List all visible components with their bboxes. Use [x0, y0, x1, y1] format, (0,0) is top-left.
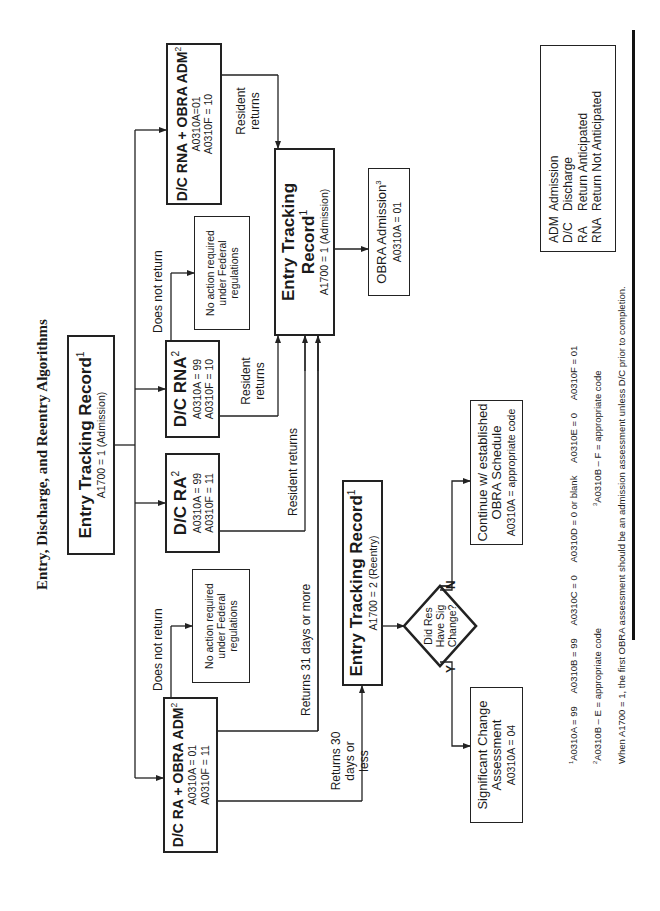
footnote-1: 1A0310A = 99 A0310B = 99 A0310C = 0 A031…: [568, 346, 579, 764]
node-line2: A0310F = 10: [202, 94, 214, 154]
node-line2: A0310F = 11: [203, 473, 215, 533]
legend-abbr: D/C: [561, 211, 575, 243]
footnote-ref: 2: [170, 703, 180, 708]
legend-abbr: RNA: [590, 211, 604, 243]
legend-meaning: Discharge: [561, 157, 575, 211]
page-title: Entry, Discharge, and Reentry Algorithms: [34, 319, 51, 590]
edge-label-returns-31-days: Returns 31 days or more: [300, 584, 314, 716]
entry-tracking-record-admission-mid: Entry Tracking Record1 A1700 = 1 (Admiss…: [274, 148, 335, 336]
legend-abbr: RA: [576, 211, 590, 243]
node-title: Entry Tracking Record: [347, 495, 366, 676]
legend-row: RNAReturn Not Anticipated: [590, 54, 604, 243]
node-subtitle: A0310A = 01: [391, 202, 403, 262]
node-line1: A0310A=01: [190, 96, 202, 151]
dc-ra-node: D/C RA2 A0310A = 99 A0310F = 11: [165, 453, 220, 553]
significant-change-assessment-node: Significant Change Assessment A0310A = 0…: [470, 687, 523, 823]
dc-rna-node: D/C RNA2 A0310A = 99 A0310F = 10: [165, 340, 220, 438]
legend-row: ADMAdmission: [547, 54, 561, 243]
node-line1: A0310A = 01: [186, 745, 198, 805]
edge-label-resident-returns-ra: Resident returns: [287, 428, 301, 516]
footnote-when: When A1700 = 1, the first OBRA assessmen…: [616, 286, 627, 764]
node-subtitle: A0310A = appropriate code: [505, 409, 517, 537]
node-subtitle: A1700 = 1 (Admission): [95, 392, 107, 499]
node-title: D/C RNA: [171, 356, 190, 427]
footnote-ref: 3: [374, 180, 383, 184]
abbreviation-legend: ADMAdmission D/CDischarge RAReturn Antic…: [540, 45, 616, 252]
no-action-required-right: No action required under Federal regulat…: [194, 216, 250, 330]
node-title: Continue w/ established OBRA Schedule: [476, 401, 506, 544]
edge-label-returns-30-days: Returns 30 days or less: [330, 731, 371, 791]
edge-label-resident-returns-rna-obra: Resident returns: [235, 81, 263, 141]
footnote-3: 3A0310B – F = appropriate code: [592, 371, 603, 506]
legend-row: RAReturn Anticipated: [576, 54, 590, 243]
node-subtitle: A0310A = 04: [505, 725, 517, 785]
dc-rna-obra-adm-node: D/C RNA + OBRA ADM2 A0310A=01 A0310F = 1…: [166, 43, 222, 205]
footnote-ref: 1: [346, 489, 357, 495]
node-subtitle: A1700 = 2 (Reentry): [367, 536, 379, 631]
footnote-ref: 1: [75, 351, 86, 357]
no-action-required-left: No action required under Federal regulat…: [192, 569, 250, 683]
node-subtitle: A1700 = 1 (Admission): [318, 189, 330, 296]
footnote-ref: 2: [170, 471, 181, 477]
node-title: OBRA Admission: [375, 185, 390, 284]
node-line2: A0310F = 10: [203, 359, 215, 419]
dc-ra-obra-adm-node: D/C RA + OBRA ADM2 A0310A = 01 A0310F = …: [163, 697, 218, 853]
edge-label-does-not-return-right: Does not return: [152, 250, 166, 333]
footnote-ref: 1: [298, 210, 309, 216]
legend-row: D/CDischarge: [561, 54, 575, 243]
node-title: Entry Tracking Record: [279, 183, 318, 301]
legend-meaning: Return Not Anticipated: [590, 91, 604, 211]
continue-obra-schedule-node: Continue w/ established OBRA Schedule A0…: [470, 400, 523, 545]
node-line2: A0310F = 11: [199, 745, 211, 805]
legend-meaning: Return Anticipated: [576, 113, 590, 211]
footnote-text: A0310A = 99 A0310B = 99 A0310C = 0 A0310…: [568, 346, 579, 761]
legend-abbr: ADM: [547, 211, 561, 243]
node-title: D/C RNA + OBRA ADM: [174, 51, 190, 201]
edge-label-does-not-return-left: Does not return: [152, 608, 166, 691]
edge-label-resident-returns-rna: Resident returns: [240, 351, 268, 411]
footnote-ref: 2: [170, 351, 181, 357]
node-title: Entry Tracking Record: [76, 357, 95, 538]
node-text: No action required under Federal regulat…: [204, 225, 240, 321]
entry-tracking-record-reentry: Entry Tracking Record1 A1700 = 2 (Reentr…: [342, 480, 383, 686]
node-title: Significant Change Assessment: [476, 688, 506, 822]
node-text: No action required under Federal regulat…: [203, 578, 239, 674]
node-line1: A0310A = 99: [191, 359, 203, 419]
decision-yes-label: Y: [444, 665, 458, 673]
node-line1: A0310A = 99: [191, 473, 203, 533]
entry-tracking-record-admission-top: Entry Tracking Record1 A1700 = 1 (Admiss…: [67, 335, 115, 555]
footnote-ref: 2: [173, 47, 183, 52]
decision-no-label: N: [444, 580, 458, 589]
node-title: D/C RA + OBRA ADM: [170, 708, 186, 848]
footnote-text: A0310B – E = appropriate code: [592, 628, 603, 761]
obra-admission-node: OBRA Admission3 A0310A = 01: [368, 168, 410, 296]
flowchart-page: Entry, Discharge, and Reentry Algorithms…: [0, 0, 660, 911]
node-title: D/C RA: [171, 477, 190, 536]
footnote-2: 2A0310B – E = appropriate code: [592, 628, 603, 764]
decision-sig-change: Did Res Have Sig Change?: [422, 594, 458, 658]
footnote-text: A0310B – F = appropriate code: [592, 371, 603, 503]
legend-meaning: Admission: [547, 156, 561, 211]
